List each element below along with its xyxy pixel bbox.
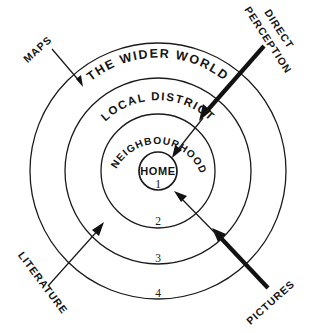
ring-label-home: HOME [140, 165, 175, 177]
zone-number-2: 2 [155, 215, 161, 227]
external-label-literature: LITERATURE [16, 249, 71, 316]
concentric-zones-diagram: THE WIDER WORLD LOCAL DISTRICT NEIGHBOUR… [0, 0, 313, 333]
svg-text:MAPS: MAPS [21, 33, 54, 65]
arrow-pictures [174, 191, 268, 288]
diagram-canvas: THE WIDER WORLD LOCAL DISTRICT NEIGHBOUR… [0, 0, 313, 333]
ring-label-local-district: LOCAL DISTRICT [99, 90, 218, 123]
external-label-pictures: PICTURES [244, 277, 297, 326]
external-label-maps: MAPS [21, 33, 54, 65]
zone-number-4: 4 [155, 287, 161, 299]
external-label-direct-perception: DIRECT PERCEPTION [242, 4, 296, 75]
svg-text:LITERATURE: LITERATURE [16, 249, 71, 316]
svg-text:PICTURES: PICTURES [244, 277, 297, 326]
zone-number-1: 1 [155, 178, 161, 190]
arrow-literature [48, 222, 104, 286]
zone-number-3: 3 [155, 252, 161, 264]
